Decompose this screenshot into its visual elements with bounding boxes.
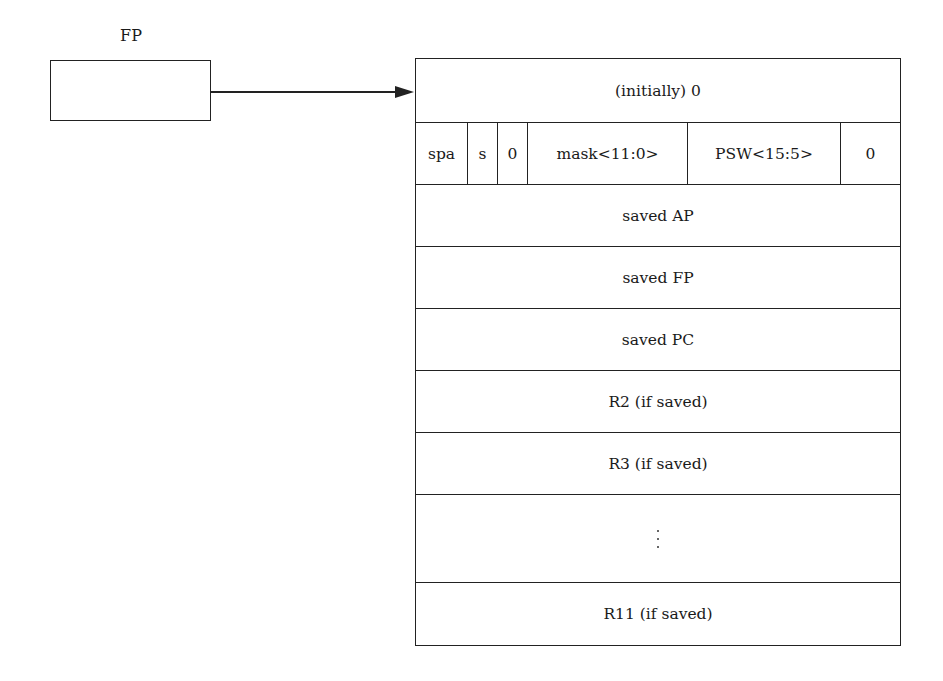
cell-label: s [479,145,487,163]
cell-zero-low: 0 [841,123,900,184]
row-label: R2 (if saved) [608,393,707,411]
cell-spa: spa [416,123,468,184]
cell-label: mask<11:0> [556,145,658,163]
row-label: saved FP [622,269,693,287]
stack-row-ellipsis [416,495,900,583]
stack-row-saved-pc: saved PC [416,309,900,371]
stack-row-saved-fp: saved FP [416,247,900,309]
cell-label: PSW<15:5> [715,145,813,163]
stack-row-condition-handler: (initially) 0 [416,59,900,123]
cell-label: 0 [508,145,518,163]
stack-row-saved-ap: saved AP [416,185,900,247]
row-label: R3 (if saved) [608,455,707,473]
cell-label: spa [428,145,455,163]
stack-row-r3: R3 (if saved) [416,433,900,495]
vertical-ellipsis-icon [657,530,659,548]
cell-label: 0 [866,145,876,163]
stack-frame: (initially) 0 spa s 0 mask<11:0> PSW<15:… [415,58,901,646]
cell-psw: PSW<15:5> [688,123,841,184]
cell-s: s [468,123,498,184]
stack-row-r2: R2 (if saved) [416,371,900,433]
stack-row-mask-psw: spa s 0 mask<11:0> PSW<15:5> 0 [416,123,900,185]
row-label: saved AP [622,207,694,225]
cell-mask: mask<11:0> [528,123,688,184]
row-label: (initially) 0 [615,82,701,100]
cell-zero-bit: 0 [498,123,528,184]
row-label: R11 (if saved) [603,605,712,623]
stack-row-r11: R11 (if saved) [416,583,900,645]
row-label: saved PC [622,331,694,349]
